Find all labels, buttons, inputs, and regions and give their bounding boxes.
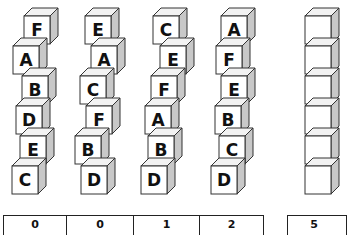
score-cell-3: 1 <box>134 216 200 235</box>
block-letter: D <box>81 166 107 194</box>
score-box-value: 5 <box>288 216 340 235</box>
score-table: 0 0 1 2 <box>3 215 264 235</box>
score-box: 5 <box>287 215 347 235</box>
letter-block: D <box>211 158 245 194</box>
block-letter: C <box>12 166 38 194</box>
block-letter: D <box>211 166 237 194</box>
score-cell-2: 0 <box>67 216 134 235</box>
letter-block <box>305 158 339 194</box>
score-cell-1: 0 <box>4 216 67 235</box>
block-letter <box>305 166 331 194</box>
block-letter: D <box>141 166 167 194</box>
score-cell-4: 2 <box>200 216 263 235</box>
letter-block: C <box>12 158 46 194</box>
letter-block: D <box>81 158 115 194</box>
letter-block: D <box>141 158 175 194</box>
